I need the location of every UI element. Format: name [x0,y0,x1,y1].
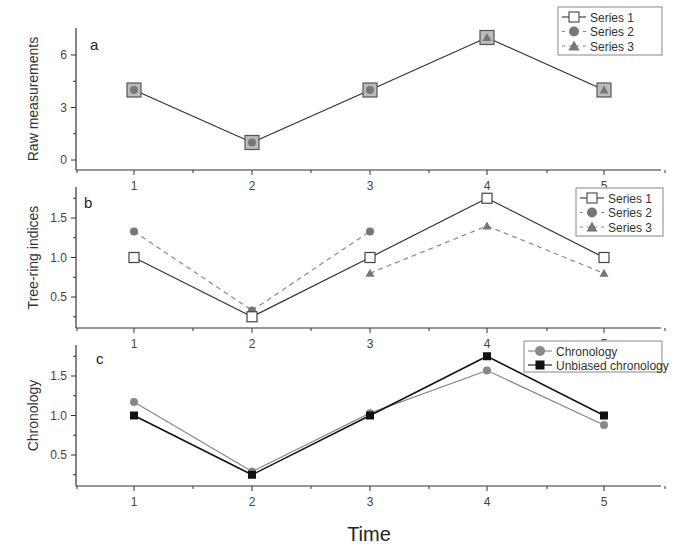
y-axis-label: Raw measurements [25,37,41,162]
legend-label: Chronology [556,345,617,359]
x-axis-label: Time [347,523,391,545]
y-tick-label: 6 [60,48,67,62]
y-tick-label: 1.5 [50,369,67,383]
series-series-3 [366,221,609,276]
y-tick-label: 0 [60,153,67,167]
x-tick-label: 4 [484,495,491,509]
panel-letter: c [96,350,104,367]
x-tick-label: 3 [367,337,374,351]
y-tick-label: 1.0 [50,409,67,423]
panel-letter: a [90,36,99,53]
y-tick-label: 3 [60,101,67,115]
legend: Series 1Series 2Series 3 [558,7,662,55]
x-tick-label: 3 [367,179,374,193]
legend-label: Series 1 [608,192,652,206]
legend: Series 1Series 2Series 3 [576,188,663,236]
x-tick-label: 2 [249,179,256,193]
x-tick-label: 1 [131,179,138,193]
x-tick-label: 4 [484,337,491,351]
legend-label: Unbiased chronology [556,359,669,373]
x-tick-label: 5 [601,495,608,509]
series-series-1 [129,193,609,322]
figure: 03612345aRaw measurementsSeries 1Series … [0,0,677,556]
legend: ChronologyUnbiased chronology [524,341,669,373]
x-tick-label: 1 [131,337,138,351]
panel-a: 03612345aRaw measurementsSeries 1Series … [25,7,665,193]
y-tick-label: 1.5 [50,211,67,225]
x-tick-label: 2 [249,495,256,509]
x-tick-label: 3 [367,495,374,509]
legend-label: Series 3 [590,40,634,54]
panel-b: 0.51.01.512345bTree-ring indicesSeries 1… [25,187,665,351]
legend-label: Series 1 [590,11,634,25]
y-tick-label: 0.5 [50,448,67,462]
legend-label: Series 2 [608,206,652,220]
series-series-2 [130,227,374,314]
y-tick-label: 0.5 [50,290,67,304]
y-tick-label: 1.0 [50,251,67,265]
panel-c: 0.51.01.512345cChronologyChronologyUnbia… [25,341,669,509]
series-chronology [130,366,608,475]
y-axis-label: Tree-ring indices [25,206,41,310]
panel-letter: b [84,194,92,211]
x-tick-label: 4 [484,179,491,193]
x-tick-label: 2 [249,337,256,351]
legend-label: Series 2 [590,25,634,39]
x-tick-label: 1 [131,495,138,509]
legend-label: Series 3 [608,221,652,235]
y-axis-label: Chronology [25,380,41,452]
